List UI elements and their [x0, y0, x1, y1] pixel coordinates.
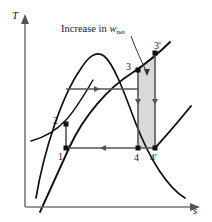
state-label-2: 2: [53, 116, 58, 126]
state-marker-3p: [153, 51, 158, 56]
y-axis-label: T: [12, 10, 18, 21]
caption-subscript: net: [116, 28, 125, 36]
state-marker-3: [136, 68, 141, 73]
y-axis-arrowhead: [21, 14, 29, 24]
state-label-1: 1: [58, 152, 63, 162]
state-marker-4: [136, 146, 141, 151]
caption-increase-in-net-work: Increase in wnet: [61, 24, 125, 35]
state-label-4p: 4': [150, 153, 157, 163]
state-label-4: 4: [134, 153, 139, 163]
arrow-process-2-3: [94, 86, 100, 92]
saturation-dome-curve: [36, 54, 185, 198]
state-marker-4p: [153, 146, 158, 151]
isobar-condenser-curve: [155, 106, 191, 148]
state-marker-1: [64, 146, 69, 151]
state-marker-2: [64, 122, 69, 127]
ts-diagram-figure: T s Increase in wnet 1 2 3 3' 4 4': [0, 0, 212, 222]
arrow-process-4-1: [100, 145, 106, 151]
caption-prefix: Increase in: [61, 23, 109, 34]
state-label-3p: 3': [154, 41, 161, 51]
x-axis-label: s: [193, 205, 197, 216]
state-label-3: 3: [126, 62, 131, 72]
